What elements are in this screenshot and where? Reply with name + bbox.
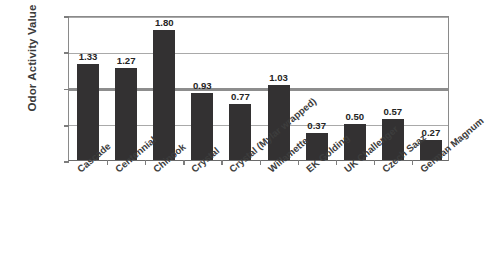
bar-group: 0.93: [183, 17, 221, 160]
x-tick-mark: [298, 160, 299, 165]
bar-value-label: 0.50: [345, 111, 364, 122]
x-tick-mark: [107, 160, 108, 165]
x-tick-mark: [336, 160, 337, 165]
x-tick-mark: [260, 160, 261, 165]
y-tick-mark-0.00: [64, 161, 69, 163]
bar-group: 0.77: [221, 17, 259, 160]
x-tick-mark: [183, 160, 184, 165]
bar-value-label: 0.37: [307, 120, 326, 131]
bar: [77, 64, 99, 160]
bar-value-label: 1.80: [155, 17, 174, 28]
y-axis-title: Odor Activity Value: [26, 0, 38, 138]
x-tick-mark: [412, 160, 413, 165]
bar-group: 1.33: [69, 17, 107, 160]
bar-group: 1.27: [107, 17, 145, 160]
bar-value-label: 1.03: [269, 72, 288, 83]
bar-value-label: 0.57: [384, 106, 403, 117]
x-tick-mark: [374, 160, 375, 165]
x-tick-mark: [221, 160, 222, 165]
bar-value-label: 0.93: [193, 80, 212, 91]
bar-value-label: 1.27: [117, 55, 136, 66]
bar-value-label: 0.77: [231, 91, 250, 102]
bar: [115, 68, 137, 160]
bar-value-label: 1.33: [79, 51, 98, 62]
x-tick-mark: [145, 160, 146, 165]
